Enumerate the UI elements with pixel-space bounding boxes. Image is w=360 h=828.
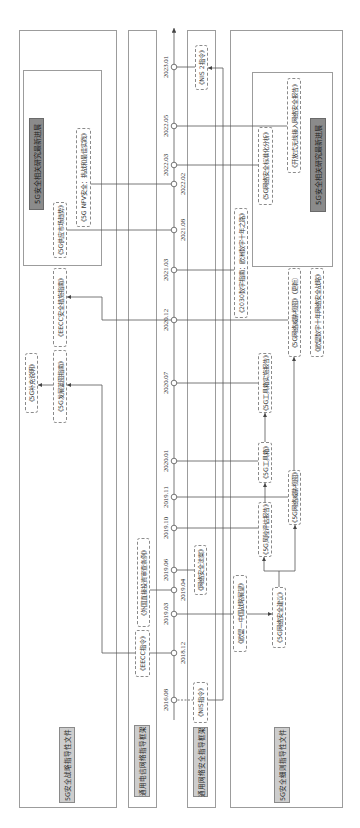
doc-5g-development-guide: 《5G发展蓝图指南》 xyxy=(53,350,67,423)
timeline-date: 2019.11 xyxy=(161,477,171,517)
doc-toolbox-report: 《5G工具箱实施报告》 xyxy=(258,353,272,413)
timeline-diagram: 5G安全战略指导性文件 通用电信网络指导框架 通用网络安全指导框架 5G安全细则… xyxy=(0,0,360,828)
timeline-date: 2022.03 xyxy=(161,145,171,185)
timeline-node xyxy=(171,64,177,70)
timeline-date: 2021.03 xyxy=(161,250,171,290)
timeline-node xyxy=(171,380,177,386)
timeline-node xyxy=(171,458,177,464)
doc-supply-market-trends: 《5G供应市场趋势》 xyxy=(53,202,67,258)
doc-threat-landscape: 《5G网络威胁视图》 xyxy=(288,470,301,525)
doc-eecc-directive: 《EECC指令》 xyxy=(135,630,150,677)
lane-strategy-label: 5G安全战略指导性文件 xyxy=(59,727,75,803)
timeline-node xyxy=(171,587,177,593)
timeline-node xyxy=(171,525,177,531)
doc-risk-assessment: 《5G风险评估报告》 xyxy=(258,502,272,557)
timeline-date: 2019.03 xyxy=(161,594,171,634)
arrow-nis-to-nis2 xyxy=(208,68,223,700)
recommendation-split xyxy=(264,571,295,587)
doc-cybersecurity-recommendation: 《5G网络安全建议》 xyxy=(272,587,286,648)
arrow-eecc-to-development xyxy=(67,385,135,653)
lane-telecom-label: 通用电信网络指导框架 xyxy=(134,725,150,797)
doc-nfv-security: 《5G NFV安全：挑战和最佳实践》 xyxy=(76,128,91,227)
timeline-date: 2020.12 xyxy=(161,300,171,340)
lane-details-label: 5G安全细则指导性文件 xyxy=(274,727,290,803)
doc-cybersecurity-strategy: 《欧盟数字十年网络安全战略》 xyxy=(310,268,324,357)
timeline-node xyxy=(171,650,177,656)
timeline-node xyxy=(171,494,177,500)
doc-5g-supplement: 《5G补充说明》 xyxy=(25,353,38,413)
timeline-date: 2020.07 xyxy=(161,363,171,403)
timeline-date: 2018.12 xyxy=(178,633,188,673)
doc-toolbox: 《5G工具箱》 xyxy=(258,442,272,483)
timeline-date: 2021.08 xyxy=(178,210,188,250)
doc-standardization-analysis: 《5G网络安全标准化分析》 xyxy=(258,127,273,205)
doc-eecc-security-guide: 《EECC安全措施指南》 xyxy=(53,268,67,347)
timeline-node xyxy=(171,227,177,233)
doc-digital-compass: 《2030数字指南：欧洲数字十年之路》 xyxy=(234,208,248,318)
timeline-node xyxy=(171,611,177,617)
timeline-node xyxy=(171,123,177,129)
doc-eu-china-outlook: 《欧盟—中国战略展望》 xyxy=(233,575,247,652)
timeline-date: 2022.05 xyxy=(161,106,171,146)
timeline-node xyxy=(171,267,177,273)
timeline-node xyxy=(171,317,177,323)
link-2020-12-strategy xyxy=(67,297,174,320)
details-latest-research-label: 5G安全相关研究最新进展 xyxy=(310,118,326,212)
doc-threat-landscape-update: 《5G网络威胁视图》（更新） xyxy=(288,268,301,357)
doc-cybersecurity-act: 《网络安全法案》 xyxy=(194,545,207,595)
doc-fdi-screening: 《外国直接投资审查条例》 xyxy=(137,538,150,627)
timeline-node xyxy=(171,162,177,168)
timeline-date: 2020.01 xyxy=(161,441,171,481)
timeline-node xyxy=(171,181,177,187)
doc-nis2-directive: 《NIS 2指令》 xyxy=(195,45,208,90)
lane-cybersecurity-label: 通用网络安全指导框架 xyxy=(193,727,208,797)
doc-nis-directive: 《NIS指令》 xyxy=(193,682,208,723)
timeline-date: 2022.02 xyxy=(178,164,188,204)
strategy-latest-research-label: 5G安全相关研究最新进展 xyxy=(29,118,44,210)
timeline-date: 2016.08 xyxy=(161,680,171,720)
timeline-node xyxy=(171,697,177,703)
doc-open-ran-report: 《开放式无线接入网络安全报告》 xyxy=(287,78,301,173)
timeline-date: 2019.06 xyxy=(161,550,171,590)
timeline-date: 2019.04 xyxy=(178,570,188,610)
timeline-node xyxy=(171,567,177,573)
timeline-date: 2023.01 xyxy=(161,47,171,87)
